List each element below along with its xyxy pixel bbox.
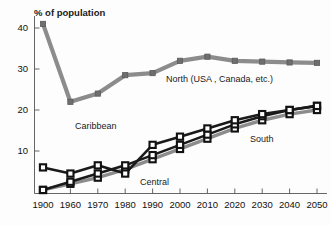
y-axis-tick-label: 30 xyxy=(10,63,28,74)
series-label-south: South xyxy=(250,134,274,144)
chart-series xyxy=(40,21,320,193)
data-point-marker xyxy=(67,179,73,185)
y-axis-tick-label: 10 xyxy=(10,145,28,156)
data-point-marker xyxy=(95,162,101,168)
x-axis-tick-label: 2050 xyxy=(301,199,331,210)
data-point-marker xyxy=(205,54,210,59)
data-point-marker xyxy=(67,170,73,176)
data-point-marker xyxy=(122,170,128,176)
chart-plot-area xyxy=(0,0,331,225)
series-label-north: North (USA , Canada, etc.) xyxy=(166,74,273,84)
data-point-marker xyxy=(40,21,45,26)
data-point-marker xyxy=(204,125,210,131)
data-point-marker xyxy=(177,134,183,140)
data-point-marker xyxy=(314,60,319,65)
data-point-marker xyxy=(40,187,46,193)
data-point-marker xyxy=(314,103,320,109)
data-point-marker xyxy=(260,59,265,64)
data-point-marker xyxy=(40,164,46,170)
data-point-marker xyxy=(177,142,183,148)
data-point-marker xyxy=(95,91,100,96)
y-axis-tick-label: 40 xyxy=(10,22,28,33)
data-point-marker xyxy=(150,71,155,76)
data-point-marker xyxy=(123,73,128,78)
chart-container: % of population 10203040 190019601970198… xyxy=(0,0,331,225)
data-point-marker xyxy=(177,58,182,63)
data-point-marker xyxy=(232,117,238,123)
chart-axes xyxy=(35,16,328,194)
data-point-marker xyxy=(259,111,265,117)
data-point-marker xyxy=(150,142,156,148)
data-point-marker xyxy=(122,162,128,168)
series-label-central: Central xyxy=(140,177,169,187)
y-axis-tick-label: 20 xyxy=(10,104,28,115)
data-point-marker xyxy=(95,170,101,176)
data-point-marker xyxy=(232,58,237,63)
data-point-marker xyxy=(287,107,293,113)
data-point-marker xyxy=(68,99,73,104)
series-label-caribbean: Caribbean xyxy=(75,121,117,131)
data-point-marker xyxy=(150,152,156,158)
data-point-marker xyxy=(287,60,292,65)
